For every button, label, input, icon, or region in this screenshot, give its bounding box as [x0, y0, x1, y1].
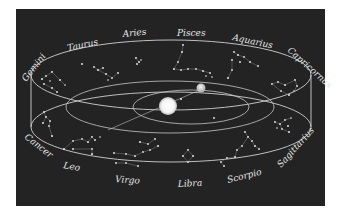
label-libra: Libra [177, 178, 203, 189]
label-virgo: Virgo [115, 174, 141, 186]
orbit-dot [213, 117, 215, 119]
sun [159, 97, 177, 115]
earth [197, 84, 206, 93]
zodiac-diagram: Gemini Taurus Aries Pisces Aquarius Capr… [0, 0, 344, 214]
moon-dot [180, 98, 182, 100]
label-pisces: Pisces [176, 28, 206, 38]
